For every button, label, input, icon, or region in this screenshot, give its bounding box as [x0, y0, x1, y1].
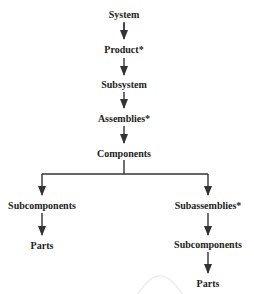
node-components: Components [97, 148, 151, 160]
node-right-subcomponents: Subcomponents [174, 239, 242, 251]
node-system: System [109, 9, 140, 21]
node-right-parts: Parts [197, 278, 220, 290]
node-left-subcomponents: Subcomponents [8, 200, 76, 212]
node-subsystem: Subsystem [101, 79, 147, 91]
node-product: Product* [104, 44, 143, 56]
node-assemblies: Assemblies* [98, 113, 150, 125]
node-subassemblies: Subassemblies* [175, 200, 242, 212]
watermark-arc [138, 276, 182, 294]
node-left-parts: Parts [31, 240, 54, 252]
